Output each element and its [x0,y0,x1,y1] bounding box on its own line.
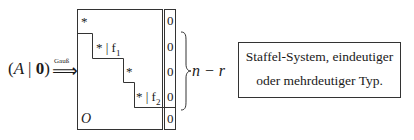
implies-arrow-icon: ⟹ [52,60,78,81]
rhs-zero-3: 0 [167,64,174,80]
rhs-zero-4: 0 [167,89,174,105]
rhs-zero-5: 0 [167,111,174,127]
zero-vector-symbol: 0 [36,59,45,78]
rhs-zero-1: 0 [167,13,174,29]
row2-entry: * | f1 [96,40,120,58]
row1-entry: * [81,14,88,30]
info-box-line-2: oder mehrdeutiger Typ. [239,73,400,89]
right-brace-icon [181,32,191,110]
row4-entry: * | f2 [136,89,160,107]
bar-symbol: | [28,59,31,78]
rhs-zero-2: 0 [167,39,174,55]
brace-label: n − r [192,62,225,80]
info-box: Staffel-System, eindeutiger oder mehrdeu… [238,42,401,98]
row3-entry: * [126,64,133,80]
zero-block-label: O [81,111,91,127]
close-paren: ) [44,59,50,78]
matrix-symbol: A [14,59,24,78]
info-box-line-1: Staffel-System, eindeutiger [239,49,400,65]
augmented-matrix-label: (A | 0) [8,59,50,79]
